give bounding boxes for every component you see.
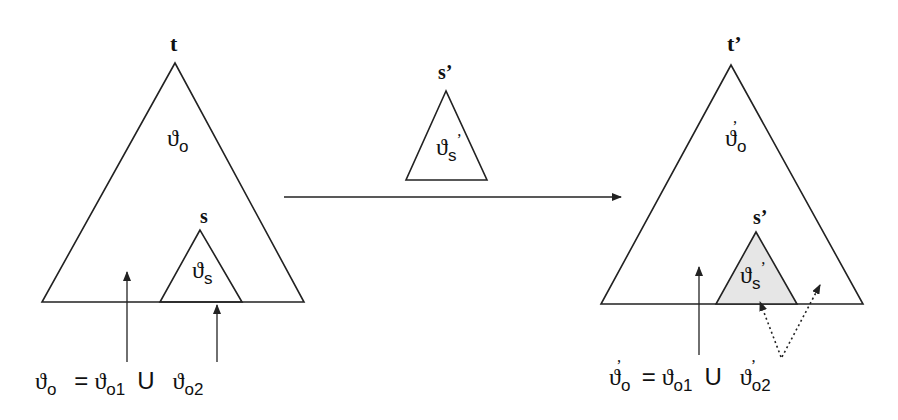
theta-o-prime-region-label: ϑo’ xyxy=(725,126,738,150)
eq-lhs-prime: ϑo’ xyxy=(609,364,622,390)
equation-right: ϑo’ = ϑo1 U ϑo2’ xyxy=(609,365,756,389)
eq-lhs: ϑo xyxy=(35,368,56,394)
equation-left: ϑo = ϑo1 U ϑo2 xyxy=(35,369,203,393)
eq-term1: ϑo1 xyxy=(662,364,693,390)
subtree-s-label: s xyxy=(200,206,208,226)
tree-s-prime-label: s’ xyxy=(438,62,452,82)
tree-t-prime-triangle xyxy=(601,65,863,304)
tree-t-triangle xyxy=(42,63,304,302)
theta-s-prime-region-label: ϑs’ xyxy=(436,135,462,159)
eq-union: U xyxy=(137,367,154,394)
eq-term2: ϑo2 xyxy=(173,368,204,394)
eq-equals: = xyxy=(642,363,656,390)
theta-s-prime-subregion-label: ϑs’ xyxy=(740,263,766,287)
subtree-s-prime-label: s’ xyxy=(753,207,767,227)
eq-equals: = xyxy=(74,367,88,394)
dotted-arrow-theta-o2-left xyxy=(760,302,781,357)
theta-o-region-label: ϑo xyxy=(167,126,188,150)
tree-t-prime-label: t’ xyxy=(727,33,742,55)
tree-t-label: t xyxy=(170,33,177,55)
eq-term1: ϑo1 xyxy=(94,368,125,394)
eq-union: U xyxy=(705,363,722,390)
eq-term2-prime: ϑo2’ xyxy=(740,364,756,390)
theta-s-region-label: ϑs xyxy=(192,258,212,282)
